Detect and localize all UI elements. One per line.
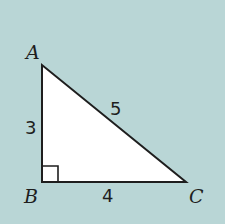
triangle-abc [42,65,186,182]
vertex-label-c: C [189,185,204,207]
side-label-bc: 4 [102,185,113,206]
side-label-ac: 5 [110,98,121,119]
vertex-label-a: A [24,41,40,63]
vertex-label-b: B [23,185,38,207]
right-triangle-diagram: A B C 3 4 5 [0,0,225,224]
side-label-ab: 3 [25,117,36,138]
